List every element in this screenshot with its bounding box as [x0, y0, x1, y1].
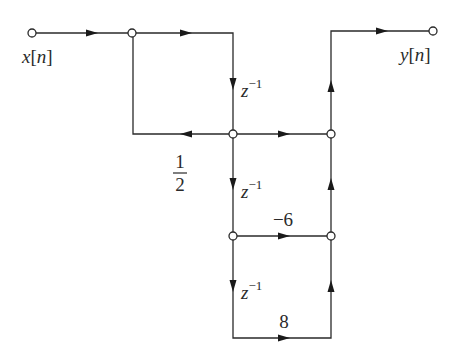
delay-label-1: z−1 [240, 76, 262, 101]
arrow-right-icon [278, 131, 290, 138]
node-out-sum1 [327, 130, 335, 138]
gain-half-numerator: 1 [175, 151, 185, 172]
node-w0 [229, 130, 237, 138]
gain-eight: 8 [279, 311, 289, 332]
input-label: x[n] [21, 46, 53, 67]
delay-label-2: z−1 [240, 177, 262, 202]
arrow-down-icon [230, 280, 237, 292]
arrow-down-icon [230, 78, 237, 90]
arrow-right-icon [180, 30, 192, 37]
arrow-right-icon [278, 233, 290, 240]
arrow-up-icon [328, 280, 335, 292]
arrow-right-icon [376, 28, 388, 35]
gain-minus-six: −6 [273, 209, 293, 230]
arrow-up-icon [328, 80, 335, 92]
arrow-left-icon [180, 131, 192, 138]
delay-label-3: z−1 [240, 278, 262, 303]
branch-node-sum1 [128, 29, 136, 37]
wire-sum1-to-w0-delay [136, 33, 233, 130]
arrowheads [86, 28, 388, 342]
gain-half-denominator: 2 [175, 174, 185, 195]
node-w1 [229, 232, 237, 240]
arrow-right-icon [86, 30, 98, 37]
arrow-right-icon [278, 335, 290, 342]
node-out-sum2 [327, 232, 335, 240]
arrow-down-icon [230, 178, 237, 190]
input-node [28, 29, 36, 37]
output-label: y[n] [398, 44, 431, 65]
labels: x[n] y[n] z−1 z−1 z−1 1 2 −6 [21, 44, 431, 332]
arrow-up-icon [328, 178, 335, 190]
signal-flow-diagram: x[n] y[n] z−1 z−1 z−1 1 2 −6 [0, 0, 456, 355]
output-node [429, 27, 437, 35]
wire-w0-feedback-half [133, 37, 229, 134]
